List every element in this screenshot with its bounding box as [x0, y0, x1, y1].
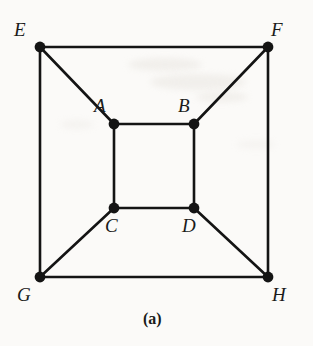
graph-edge-h-d — [194, 208, 268, 277]
vertex-label-d: D — [182, 216, 196, 235]
graph-edge-f-b — [194, 47, 268, 124]
figure-caption: (a) — [143, 311, 162, 327]
graph-vertex-e — [35, 42, 46, 53]
graph-vertex-b — [189, 119, 200, 130]
graph-drawing — [0, 0, 313, 346]
vertex-label-b: B — [178, 96, 190, 115]
graph-vertex-f — [263, 42, 274, 53]
vertex-label-a: A — [94, 96, 106, 115]
vertex-label-e: E — [14, 20, 26, 39]
graph-edges — [40, 47, 268, 277]
graph-vertex-d — [189, 203, 200, 214]
graph-vertex-g — [35, 272, 46, 283]
graph-edge-g-c — [40, 208, 114, 277]
figure-container: ABCDEFGH (a) — [0, 0, 313, 346]
graph-vertex-c — [109, 203, 120, 214]
graph-vertex-h — [263, 272, 274, 283]
graph-vertex-a — [109, 119, 120, 130]
vertex-label-h: H — [272, 285, 286, 304]
vertex-label-g: G — [17, 285, 31, 304]
vertex-label-c: C — [105, 216, 118, 235]
vertex-label-f: F — [271, 20, 283, 39]
